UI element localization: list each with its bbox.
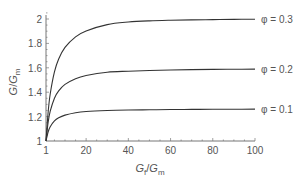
series-line [46,109,255,141]
series-line [46,69,255,141]
y-tick-label: 1.8 [28,38,42,49]
y-axis-label: G/Gm [7,68,22,95]
y-tick-label: 1.2 [28,112,42,123]
y-tick-label: 1 [36,136,42,147]
chart: 12040608010011.21.41.61.82 φ = 0.3φ = 0.… [0,0,301,182]
x-tick-label: 20 [81,145,93,156]
axes: 12040608010011.21.41.61.82 [28,13,264,156]
series-labels: φ = 0.3φ = 0.2φ = 0.1 [261,14,293,115]
x-tick-label: 100 [247,145,264,156]
y-tick-label: 1.4 [28,87,42,98]
x-axis-label: Gf/Gm [135,162,164,177]
x-tick-label: 1 [43,145,49,156]
x-tick-label: 60 [165,145,177,156]
y-tick-label: 1.6 [28,63,42,74]
curves [46,19,255,141]
series-line [46,19,255,141]
y-tick-label: 2 [36,14,42,25]
series-label: φ = 0.1 [261,104,293,115]
x-tick-label: 40 [123,145,135,156]
series-label: φ = 0.3 [261,14,293,25]
x-tick-label: 80 [207,145,219,156]
series-label: φ = 0.2 [261,64,293,75]
